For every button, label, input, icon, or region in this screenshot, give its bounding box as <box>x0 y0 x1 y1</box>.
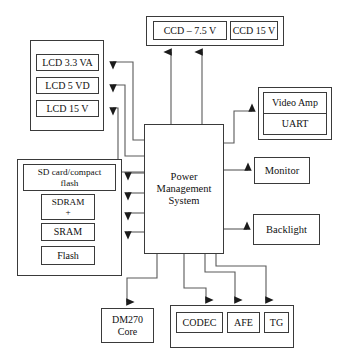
node-label: LCD 3.3 VA <box>42 57 92 68</box>
node-label: LCD 5 VD <box>45 80 89 91</box>
node-label: UART <box>282 118 309 129</box>
node-power-management-system[interactable]: Power Management System <box>144 124 224 254</box>
node-afe[interactable]: AFE <box>227 312 260 333</box>
node-flash[interactable]: Flash <box>41 246 95 265</box>
node-ccd-15v[interactable]: CCD 15 V <box>230 21 278 40</box>
node-label: Monitor <box>265 165 299 177</box>
node-dm270-core[interactable]: DM270 Core <box>101 308 154 343</box>
node-sd-card-compact-flash[interactable]: SD card/compact flash <box>23 164 116 191</box>
node-video-amp[interactable]: Video Amp <box>263 92 327 114</box>
block-diagram-canvas: CCD – 7.5 V CCD 15 V LCD 3.3 VA LCD 5 VD… <box>0 0 344 362</box>
node-label: LCD 15 V <box>46 103 88 114</box>
node-sdram[interactable]: SDRAM + <box>41 194 95 220</box>
node-monitor[interactable]: Monitor <box>254 157 310 184</box>
node-label: SD card/compact flash <box>38 167 102 188</box>
node-label: CCD – 7.5 V <box>164 25 217 36</box>
node-label: Video Amp <box>272 97 318 108</box>
node-lcd-3-3-va[interactable]: LCD 3.3 VA <box>36 54 99 71</box>
node-label: AFE <box>234 317 253 328</box>
node-label: CODEC <box>183 317 217 328</box>
node-backlight[interactable]: Backlight <box>253 214 320 245</box>
node-label: SDRAM + <box>52 197 85 218</box>
node-tg[interactable]: TG <box>264 312 289 333</box>
node-lcd-15-v[interactable]: LCD 15 V <box>36 100 99 117</box>
node-lcd-5-vd[interactable]: LCD 5 VD <box>36 77 99 94</box>
node-label: DM270 Core <box>112 314 143 336</box>
node-sram[interactable]: SRAM <box>41 223 95 241</box>
node-label: CCD 15 V <box>233 25 276 36</box>
node-label: Backlight <box>266 224 307 236</box>
node-label: SRAM <box>54 226 82 237</box>
node-label: Flash <box>57 250 79 261</box>
node-label: Power Management System <box>157 171 212 206</box>
node-label: TG <box>270 317 283 328</box>
node-codec[interactable]: CODEC <box>176 312 223 333</box>
node-uart[interactable]: UART <box>263 113 327 135</box>
node-ccd-7-5v[interactable]: CCD – 7.5 V <box>153 21 227 40</box>
